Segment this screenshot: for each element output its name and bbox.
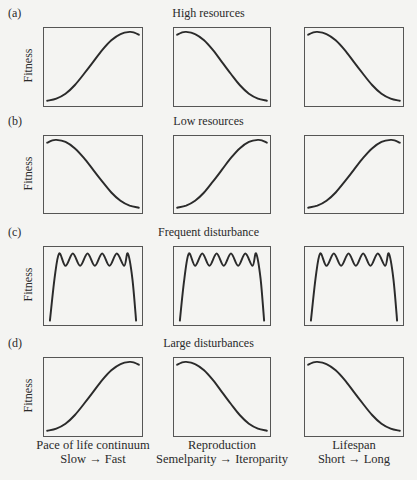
plot-b-1 [43,135,143,214]
row-title-c: Frequent disturbance [0,225,417,240]
plot-d-1 [43,357,143,437]
fitness-curve [174,28,270,106]
x-axis-subtitle: Semelparity → Iteroparity [147,452,297,466]
x-axis-title: Pace of life continuum [23,438,163,452]
plot-a-1 [43,27,143,107]
fitness-curve [44,136,142,213]
fitness-curve [305,28,403,106]
y-axis-label-d: Fitness [21,366,36,426]
plot-a-3 [304,27,404,107]
row-title-a: High resources [0,6,417,21]
fitness-curve [44,358,142,436]
plot-d-2 [173,357,271,437]
plot-d-3 [304,357,404,437]
plot-c-1 [43,246,143,326]
plot-c-2 [173,246,271,326]
fitness-curve [305,247,403,325]
fitness-curve [44,28,142,106]
x-axis-label-lifespan: Lifespan Short → Long [284,438,417,466]
y-axis-label-a: Fitness [21,36,36,96]
x-axis-subtitle: Slow → Fast [23,452,163,466]
fitness-curve [305,136,403,213]
y-axis-label-b: Fitness [21,144,36,204]
plot-b-3 [304,135,404,214]
fitness-curve [174,136,270,213]
y-axis-label-c: Fitness [21,255,36,315]
x-axis-label-pace: Pace of life continuum Slow → Fast [23,438,163,466]
x-axis-label-reproduction: Reproduction Semelparity → Iteroparity [147,438,297,466]
x-axis-title: Reproduction [147,438,297,452]
plot-a-2 [173,27,271,107]
fitness-curve [174,247,270,325]
row-title-b: Low resources [0,114,417,129]
plot-c-3 [304,246,404,326]
row-title-d: Large disturbances [0,336,417,351]
fitness-curve [174,358,270,436]
fitness-curve [44,247,142,325]
plot-b-2 [173,135,271,214]
x-axis-title: Lifespan [284,438,417,452]
fitness-curve [305,358,403,436]
x-axis-subtitle: Short → Long [284,452,417,466]
